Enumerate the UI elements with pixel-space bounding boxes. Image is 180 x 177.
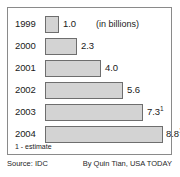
value-label-1999: 1.0 xyxy=(63,18,76,29)
category-label-2001: 2001 xyxy=(15,62,43,73)
value-label-2003: 7.31 xyxy=(147,106,163,117)
value-label-2000: 2.3 xyxy=(81,40,94,51)
value-text: 8.8 xyxy=(166,128,179,139)
source-label: Source: IDC xyxy=(7,159,48,168)
chart-figure: (in billions) 1999 1.0 2000 2.3 2001 4.0… xyxy=(0,0,180,177)
value-text: 4.0 xyxy=(105,62,118,73)
bar-row: 2000 2.3 xyxy=(8,37,171,57)
category-label-2000: 2000 xyxy=(15,40,43,51)
value-label-2002: 5.6 xyxy=(127,84,140,95)
bar-2002 xyxy=(45,82,123,99)
bar-2000 xyxy=(45,38,77,55)
bar-row: 2001 4.0 xyxy=(8,59,171,79)
footnote-marker: 1 xyxy=(179,127,180,134)
category-label-2002: 2002 xyxy=(15,84,43,95)
bar-2004 xyxy=(45,126,163,143)
value-label-2004: 8.81 xyxy=(166,128,180,139)
value-text: 5.6 xyxy=(127,84,140,95)
value-text: 7.3 xyxy=(147,106,160,117)
value-text: 1.0 xyxy=(63,18,76,29)
bar-row: 2003 7.31 xyxy=(8,103,171,123)
category-label-2003: 2003 xyxy=(15,106,43,117)
category-label-2004: 2004 xyxy=(15,128,43,139)
bar-row: 2002 5.6 xyxy=(8,81,171,101)
chart-footer: Source: IDC By Quin Tian, USA TODAY xyxy=(7,159,172,168)
chart-footnote: 1 - estimate xyxy=(15,143,52,150)
bar-1999 xyxy=(45,16,59,33)
category-label-1999: 1999 xyxy=(15,18,43,29)
value-label-2001: 4.0 xyxy=(105,62,118,73)
chart-plot-area: (in billions) 1999 1.0 2000 2.3 2001 4.0… xyxy=(7,7,172,155)
bar-2003 xyxy=(45,104,143,121)
bar-row: 1999 1.0 xyxy=(8,15,171,35)
bar-2001 xyxy=(45,60,101,77)
footnote-marker: 1 xyxy=(160,105,164,112)
bar-row: 2004 8.81 xyxy=(8,125,171,145)
credit-label: By Quin Tian, USA TODAY xyxy=(83,159,172,168)
value-text: 2.3 xyxy=(81,40,94,51)
